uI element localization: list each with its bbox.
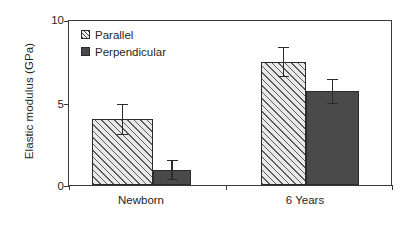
filled-swatch-icon — [81, 47, 90, 56]
legend-item-parallel: Parallel — [81, 27, 166, 42]
error-bar-cap-top — [327, 79, 338, 80]
chart-legend: Parallel Perpendicular — [81, 27, 166, 61]
y-tick-label-5: 5 — [38, 98, 64, 110]
error-bar-stem — [332, 79, 333, 104]
x-tick-label-newborn: Newborn — [91, 194, 191, 207]
error-bar-stem — [171, 160, 172, 180]
legend-label-perpendicular: Perpendicular — [95, 46, 166, 58]
x-tick-mark-right — [392, 185, 393, 190]
error-bar-stem — [283, 47, 284, 77]
legend-label-parallel: Parallel — [95, 29, 133, 41]
x-tick-mark-left — [69, 185, 70, 190]
error-bar-cap-bottom — [117, 134, 128, 135]
hatched-swatch-icon — [81, 30, 90, 39]
y-axis-tick-labels: 0 5 10 — [34, 0, 64, 225]
bar-6years-parallel — [261, 62, 306, 185]
x-tick-mark-middle — [226, 185, 227, 190]
error-bar-cap-top — [117, 104, 128, 105]
error-bar-cap-bottom — [278, 76, 289, 77]
bar-6years-perpendicular — [306, 91, 359, 185]
plot-area: Parallel Perpendicular — [68, 20, 392, 186]
y-tick-mark-5 — [64, 104, 69, 105]
y-tick-label-10: 10 — [38, 14, 64, 26]
error-bar-cap-top — [167, 160, 178, 161]
error-bar-cap-bottom — [327, 103, 338, 104]
legend-item-perpendicular: Perpendicular — [81, 44, 166, 59]
error-bar-stem — [122, 104, 123, 136]
y-tick-mark-10 — [64, 21, 69, 22]
error-bar-cap-bottom — [167, 179, 178, 180]
bar-chart-figure: Elastic modulus (GPa) 0 5 10 — [0, 0, 409, 225]
y-tick-label-0: 0 — [38, 180, 64, 192]
error-bar-cap-top — [278, 47, 289, 48]
x-tick-label-6years: 6 Years — [255, 194, 355, 207]
